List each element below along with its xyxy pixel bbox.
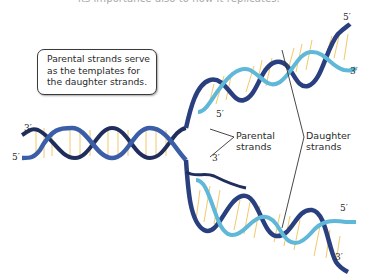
end-label-left-bottom: 5′ bbox=[12, 152, 20, 162]
end-label-lower-right-bottom: 3′ bbox=[335, 252, 343, 262]
end-label-lower-fork: 3′ bbox=[212, 153, 220, 163]
parental-label-line-2: strands bbox=[236, 141, 275, 152]
parental-strands-label: Parental strands bbox=[236, 130, 275, 152]
end-label-upper-right-top: 5′ bbox=[343, 12, 351, 22]
end-label-lower-right-top: 5′ bbox=[340, 203, 348, 213]
lower-dark-back-strand bbox=[186, 172, 246, 188]
callout-line-1: Parental strands serve bbox=[47, 53, 156, 65]
daughter-label-line-2: strands bbox=[306, 141, 351, 152]
end-label-upper-fork: 5′ bbox=[216, 109, 224, 119]
upper-helix-base-pairs bbox=[208, 32, 348, 108]
end-label-left-top: 3′ bbox=[24, 123, 32, 133]
parental-label-line-1: Parental bbox=[236, 130, 275, 141]
daughter-strands-label: Daughter strands bbox=[306, 130, 351, 152]
callout-line-3: the daughter strands. bbox=[47, 76, 156, 88]
daughter-label-line-1: Daughter bbox=[306, 130, 351, 141]
callout-line-2: as the templates for bbox=[47, 65, 156, 77]
end-label-upper-right-bottom: 3′ bbox=[350, 66, 358, 76]
callout-box: Parental strands serve as the templates … bbox=[37, 49, 157, 95]
